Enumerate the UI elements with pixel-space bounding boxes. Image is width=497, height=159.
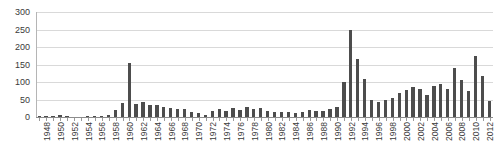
x-axis-tick [226, 118, 227, 121]
x-axis-tick [351, 118, 352, 121]
x-axis-tick [240, 118, 241, 121]
x-axis-tick [282, 118, 283, 121]
bar [446, 89, 449, 117]
x-axis-tick [123, 118, 124, 121]
x-axis-tick-label: 1954 [85, 122, 94, 141]
y-axis-line [36, 12, 37, 118]
bar [356, 59, 359, 117]
x-axis-tick-label: 1984 [292, 122, 301, 141]
gridline [36, 65, 493, 66]
x-axis-tick [393, 118, 394, 121]
bar [391, 98, 394, 117]
x-axis-tick [455, 118, 456, 121]
bar [238, 110, 241, 117]
x-axis-tick [109, 118, 110, 121]
bar [134, 104, 137, 117]
x-axis-tick [275, 118, 276, 121]
x-axis-tick [60, 118, 61, 121]
x-axis-tick [400, 118, 401, 121]
x-axis-tick [81, 118, 82, 121]
x-axis-tick [247, 118, 248, 121]
bar [370, 100, 373, 117]
x-axis-tick [136, 118, 137, 121]
x-axis-tick [157, 118, 158, 121]
x-axis-tick-label: 2004 [431, 122, 440, 141]
x-axis-tick-label: 2000 [403, 122, 412, 141]
x-axis-tick [420, 118, 421, 121]
gridline [36, 30, 493, 31]
x-axis-tick-label: 1950 [57, 122, 66, 141]
x-axis-tick [192, 118, 193, 121]
bar-chart: 050100150200250300 194819501952195419561… [0, 0, 497, 159]
bar [418, 89, 421, 117]
x-axis-tick-label: 1972 [209, 122, 218, 141]
x-axis-tick [199, 118, 200, 121]
bar [259, 108, 262, 117]
x-axis-tick-label: 1996 [375, 122, 384, 141]
bar [114, 110, 117, 117]
x-axis-tick [316, 118, 317, 121]
x-axis-tick [46, 118, 47, 121]
x-axis-tick-label: 1958 [112, 122, 121, 141]
y-axis-tick-label: 300 [15, 8, 30, 17]
x-axis-tick-label: 2010 [472, 122, 481, 141]
x-axis-tick [219, 118, 220, 121]
y-axis-tick-label: 0 [25, 113, 30, 122]
x-axis-tick [254, 118, 255, 121]
x-axis-tick-label: 1976 [237, 122, 246, 141]
bar [231, 108, 234, 117]
bar [245, 107, 248, 118]
x-axis-tick-label: 2012 [486, 122, 495, 141]
x-axis-tick-label: 1964 [154, 122, 163, 141]
x-axis-tick [164, 118, 165, 121]
x-axis-tick [88, 118, 89, 121]
x-axis-tick [289, 118, 290, 121]
bar [218, 109, 221, 117]
x-axis-tick-label: 2008 [458, 122, 467, 141]
x-axis-tick [102, 118, 103, 121]
bar [162, 107, 165, 117]
x-axis-tick-label: 1962 [140, 122, 149, 141]
x-axis-tick [171, 118, 172, 121]
bar [432, 86, 435, 117]
x-axis-tick-label: 1980 [265, 122, 274, 141]
gridline [36, 47, 493, 48]
bar [328, 109, 331, 117]
bar [121, 103, 124, 117]
x-axis-tick-label: 1956 [98, 122, 107, 141]
x-axis-tick-label: 1948 [43, 122, 52, 141]
x-axis-tick-label: 1952 [71, 122, 80, 141]
bar [308, 110, 311, 117]
x-axis-tick [310, 118, 311, 121]
bar [467, 91, 470, 117]
bar [377, 102, 380, 117]
gridline [36, 12, 493, 13]
x-axis-tick [67, 118, 68, 121]
bar [141, 102, 144, 117]
x-axis-tick-label: 1992 [348, 122, 357, 141]
bar [128, 63, 131, 117]
bar [453, 68, 456, 117]
x-axis-tick-label: 2002 [417, 122, 426, 141]
bar [176, 109, 179, 117]
x-axis-tick [116, 118, 117, 121]
bar [349, 30, 352, 118]
bar [405, 90, 408, 117]
x-axis-tick [74, 118, 75, 121]
bar [363, 79, 366, 118]
x-axis-tick [233, 118, 234, 121]
y-axis-tick-label: 150 [15, 60, 30, 69]
x-axis-tick-label: 1966 [168, 122, 177, 141]
x-axis-tick [372, 118, 373, 121]
bar [384, 100, 387, 118]
x-axis-tick-label: 1968 [181, 122, 190, 141]
y-axis: 050100150200250300 [0, 0, 33, 122]
x-axis-tick [323, 118, 324, 121]
x-axis-tick [213, 118, 214, 121]
bar [425, 95, 428, 117]
x-axis-tick [185, 118, 186, 121]
x-axis-tick-label: 1990 [334, 122, 343, 141]
x-axis-tick [427, 118, 428, 121]
x-axis-tick [303, 118, 304, 121]
bar [183, 109, 186, 117]
